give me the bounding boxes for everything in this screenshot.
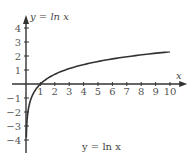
x-tick-label: 10 [164,86,177,97]
x-tick-label: 7 [124,86,130,97]
y-tick-label: −3 [6,121,21,132]
y-axis-label: y = ln x [29,11,69,22]
axes: 12345678910−4−3−2−11234 [6,15,187,153]
x-tick-label: 3 [66,86,72,97]
y-tick-label: −2 [6,107,21,118]
x-tick-label: 4 [80,86,86,97]
x-tick-label: 1 [37,86,43,97]
x-tick-label: 8 [138,86,144,97]
function-caption: y = ln x [81,141,121,152]
x-tick-label: 9 [152,86,158,97]
ln-chart: 12345678910−4−3−2−11234 y = ln x x y = l… [0,0,194,164]
y-tick-label: 2 [15,51,21,62]
x-axis-label: x [176,70,182,81]
x-tick-label: 5 [95,86,101,97]
y-tick-label: 4 [15,23,21,34]
y-tick-label: −1 [6,93,21,104]
y-axis-arrow-icon [23,15,29,24]
labels: y = ln x x y = ln x [29,11,182,152]
y-tick-label: −4 [6,135,21,146]
y-tick-label: 1 [15,65,21,76]
x-axis-arrow-icon [179,81,187,87]
x-tick-label: 6 [109,86,115,97]
y-tick-label: 3 [15,37,21,48]
x-tick-label: 2 [52,86,58,97]
